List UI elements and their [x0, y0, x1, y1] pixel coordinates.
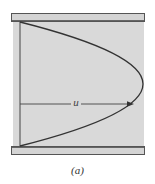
figure-caption: (a): [0, 164, 155, 176]
velocity-label: u: [71, 96, 81, 108]
velocity-profile-diagram: [0, 0, 155, 184]
fluid-region: [13, 22, 144, 146]
